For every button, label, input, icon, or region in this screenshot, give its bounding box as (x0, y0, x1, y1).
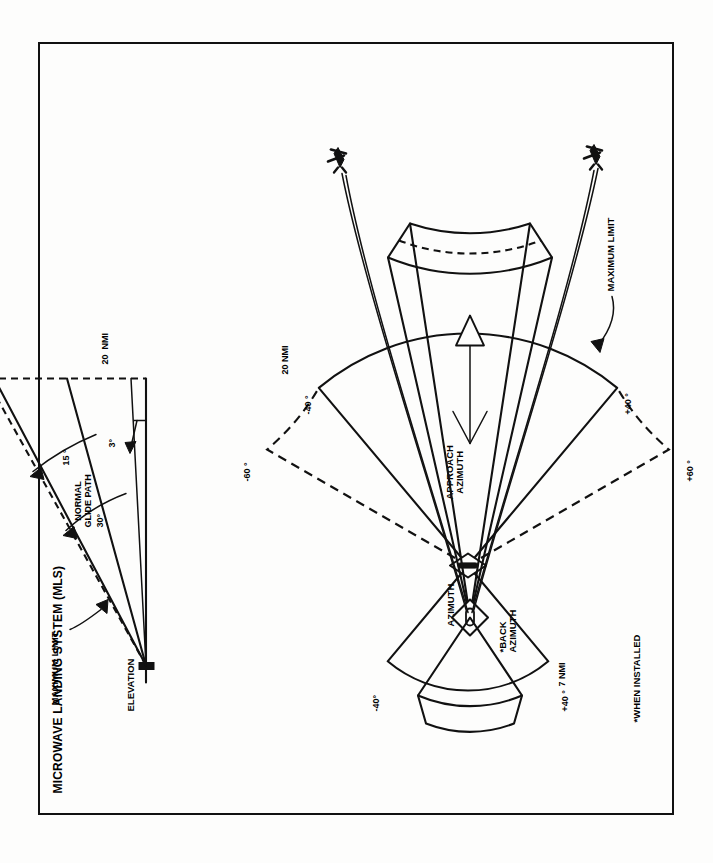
aircraft-lower-icon (584, 144, 602, 169)
aircraft-track-upper-b (342, 173, 466, 609)
figure-page: MICROWAVE LANDING SYSTEM (MLS) 20 NMI -4… (0, 0, 713, 863)
aircraft-track-upper (346, 175, 468, 612)
label-limit-plus-60: +60 ° (686, 460, 696, 481)
centerline-arrowhead (456, 315, 484, 345)
aircraft-upper-icon (328, 147, 346, 172)
figure-border: MICROWAVE LANDING SYSTEM (MLS) 20 NMI -4… (38, 42, 674, 815)
back-azimuth-far-face (418, 695, 522, 706)
perspective-diagram-graphics (38, 42, 674, 815)
rotated-artwork: MICROWAVE LANDING SYSTEM (MLS) 20 NMI -4… (38, 42, 674, 815)
coverage-wedge-edge-upper (410, 223, 470, 617)
aircraft-track-lower (472, 170, 594, 612)
coverage-wedge-far-face (388, 257, 552, 273)
coverage-wedge-hidden-rib (399, 240, 541, 253)
coverage-wedge-edge-lower (470, 223, 530, 617)
